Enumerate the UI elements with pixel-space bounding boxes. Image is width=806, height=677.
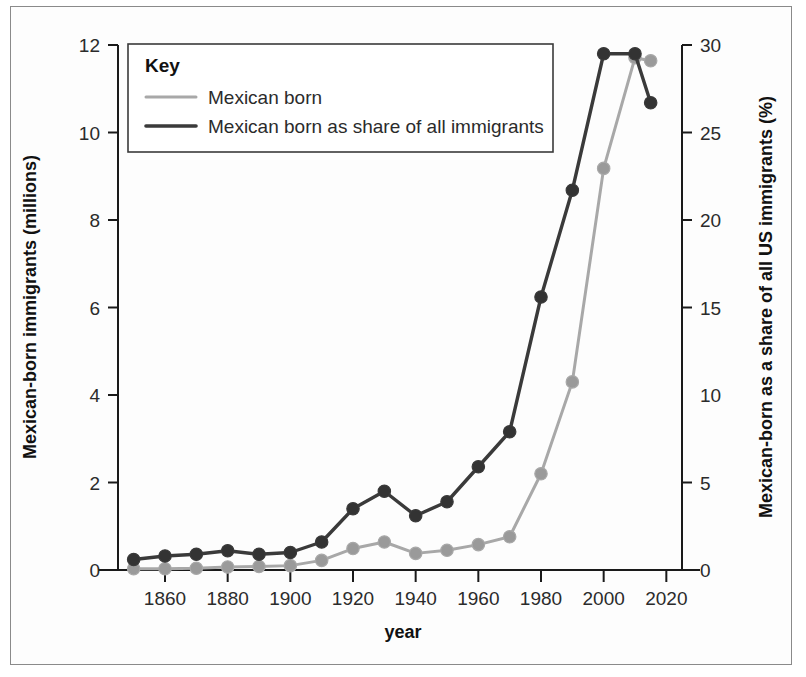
data-point-marker xyxy=(644,97,656,109)
data-point-marker xyxy=(503,426,515,438)
y-right-tick-label: 30 xyxy=(700,35,721,56)
data-point-marker xyxy=(190,548,202,560)
legend: Key Mexican bornMexican born as share of… xyxy=(128,44,553,152)
y-left-tick-label: 6 xyxy=(89,298,100,319)
data-point-marker xyxy=(221,545,233,557)
data-point-marker xyxy=(644,55,656,67)
data-point-marker xyxy=(503,531,515,543)
x-tick-label: 1940 xyxy=(395,588,437,609)
data-point-marker xyxy=(190,562,202,574)
data-point-marker xyxy=(441,496,453,508)
data-point-marker xyxy=(535,291,547,303)
data-point-marker xyxy=(221,561,233,573)
y-right-tick-label: 15 xyxy=(700,298,721,319)
data-point-marker xyxy=(347,503,359,515)
data-point-marker xyxy=(253,548,265,560)
data-point-marker xyxy=(347,542,359,554)
data-point-marker xyxy=(409,547,421,559)
x-tick-label: 1860 xyxy=(144,588,186,609)
y-left-tick-label: 8 xyxy=(89,210,100,231)
y-left-tick-label: 12 xyxy=(79,35,100,56)
data-point-marker xyxy=(378,536,390,548)
data-point-marker xyxy=(284,559,296,571)
x-axis-title: year xyxy=(384,622,421,642)
y-left-tick-label: 4 xyxy=(89,385,100,406)
data-point-marker xyxy=(597,48,609,60)
x-tick-label: 1900 xyxy=(269,588,311,609)
y-right-tick-label: 5 xyxy=(700,473,711,494)
data-point-marker xyxy=(315,554,327,566)
y-right-tick-label: 20 xyxy=(700,210,721,231)
data-point-marker xyxy=(535,468,547,480)
figure-page: year Mexican-born immigrants (millions) … xyxy=(0,0,806,677)
x-tick-label: 1960 xyxy=(457,588,499,609)
legend-label: Mexican born as share of all immigrants xyxy=(208,116,544,137)
y-right-ticks: 051015202530 xyxy=(682,35,721,581)
data-point-marker xyxy=(472,538,484,550)
y-right-tick-label: 0 xyxy=(700,560,711,581)
x-tick-label: 1980 xyxy=(520,588,562,609)
data-point-marker xyxy=(378,485,390,497)
data-point-marker xyxy=(284,546,296,558)
y-left-tick-label: 2 xyxy=(89,473,100,494)
data-point-marker xyxy=(441,544,453,556)
data-point-marker xyxy=(409,510,421,522)
y-left-tick-label: 10 xyxy=(79,123,100,144)
data-point-marker xyxy=(472,461,484,473)
data-point-marker xyxy=(315,536,327,548)
data-point-marker xyxy=(566,184,578,196)
line-chart: year Mexican-born immigrants (millions) … xyxy=(0,0,806,677)
x-tick-label: 2000 xyxy=(583,588,625,609)
y-left-tick-label: 0 xyxy=(89,560,100,581)
x-tick-label: 1920 xyxy=(332,588,374,609)
y-left-ticks: 024681012 xyxy=(79,35,118,581)
y-right-tick-label: 10 xyxy=(700,385,721,406)
data-point-marker xyxy=(253,560,265,572)
data-point-marker xyxy=(159,550,171,562)
y-left-axis-title: Mexican-born immigrants (millions) xyxy=(20,155,40,459)
data-point-marker xyxy=(597,162,609,174)
data-point-marker xyxy=(159,562,171,574)
x-ticks: 186018801900192019401960198020002020 xyxy=(144,570,688,609)
legend-label: Mexican born xyxy=(208,87,322,108)
x-tick-label: 1880 xyxy=(207,588,249,609)
data-point-marker xyxy=(566,376,578,388)
data-point-marker xyxy=(127,553,139,565)
y-right-tick-label: 25 xyxy=(700,123,721,144)
legend-title: Key xyxy=(145,55,180,76)
y-right-axis-title: Mexican-born as a share of all US immigr… xyxy=(756,96,776,518)
data-point-marker xyxy=(629,48,641,60)
x-tick-label: 2020 xyxy=(645,588,687,609)
